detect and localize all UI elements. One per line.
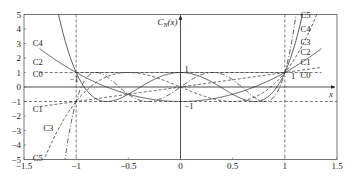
annotation-label: −1 (70, 74, 79, 84)
chebyshev-chart: xCN(x) −1.5−1−0.500.511.5543210−1−2−3−4−… (0, 0, 353, 180)
y-tick-label: 2 (17, 53, 22, 63)
series-label-c5: C5 (33, 153, 43, 163)
annotation-label: 1 (185, 64, 189, 74)
series-label-c3: C3 (300, 37, 310, 47)
series-label-c0: C0 (300, 70, 310, 80)
y-tick-label: 0 (17, 82, 22, 92)
x-tick-label: −0.5 (120, 161, 137, 171)
y-tick-label: −3 (11, 126, 21, 136)
x-tick-label: 1.5 (331, 161, 343, 171)
annotation-label: −1 (185, 101, 194, 111)
series-label-c0: C0 (33, 69, 43, 79)
y-tick-label: −1 (11, 97, 21, 107)
y-tick-label: 3 (17, 39, 22, 49)
y-tick-label: −4 (11, 140, 21, 150)
y-tick-label: 4 (17, 24, 22, 34)
series-label-c1: C1 (33, 104, 43, 114)
y-tick-label: 1 (17, 68, 22, 78)
annotation-label: 1 (291, 71, 295, 81)
series-label-c4: C4 (300, 24, 311, 34)
series-label-c5: C5 (300, 10, 310, 20)
series-label-c1: C1 (300, 57, 310, 67)
series-label-c2: C2 (300, 47, 310, 57)
x-axis-label: x (328, 89, 333, 99)
y-tick-label: −5 (11, 155, 21, 165)
x-tick-label: 1 (283, 161, 288, 171)
chart-canvas: xCN(x) −1.5−1−0.500.511.5543210−1−2−3−4−… (0, 0, 353, 180)
y-tick-label: 5 (17, 10, 22, 20)
x-tick-label: −1 (71, 161, 81, 171)
y-tick-label: −2 (11, 111, 21, 121)
series-label-c2: C2 (33, 57, 43, 67)
x-tick-label: 0 (178, 161, 183, 171)
series-label-c3: C3 (43, 123, 53, 133)
series-label-c4: C4 (33, 38, 44, 48)
x-tick-label: 0.5 (227, 161, 239, 171)
y-axis-label: CN(x) (157, 17, 177, 28)
